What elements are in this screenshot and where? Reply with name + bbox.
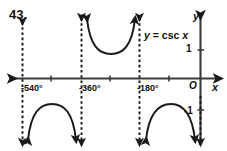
y-tick-label-1: 1 <box>186 43 192 54</box>
equation-function: csc <box>162 29 180 41</box>
csc-graph-svg <box>0 0 227 151</box>
csc-branch-middle-up <box>87 19 135 54</box>
x-tick-label-minus-360: -360° <box>79 83 101 93</box>
problem-number: 43. <box>9 7 27 22</box>
figure-canvas: 43. y = csc x -540° -360° -180° y x O 1 … <box>0 0 227 151</box>
x-tick-label-minus-540: -540° <box>21 83 43 93</box>
origin-label: O <box>189 80 197 91</box>
equation-label: y = csc x <box>144 29 188 41</box>
y-axis-label: y <box>193 10 199 22</box>
y-tick-label-minus-1: -1 <box>184 105 193 116</box>
equation-variable: x <box>179 29 188 41</box>
equation-equals: = <box>150 29 162 41</box>
x-tick-label-minus-180: -180° <box>137 83 159 93</box>
csc-branch-left-down <box>28 104 76 140</box>
x-axis-label: x <box>212 81 218 93</box>
y-axis <box>198 16 205 145</box>
